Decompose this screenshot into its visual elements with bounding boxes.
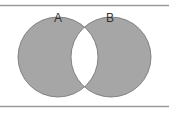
- label-b: B: [106, 11, 114, 25]
- symmetric-difference-region: [18, 17, 151, 97]
- venn-diagram: A B: [0, 0, 169, 113]
- label-a: A: [54, 11, 62, 25]
